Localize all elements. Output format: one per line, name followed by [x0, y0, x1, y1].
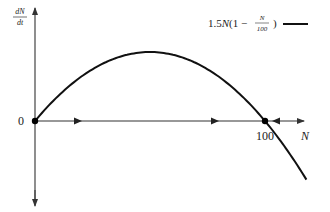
phase-arrow-right-2 [211, 118, 219, 125]
x-tick-100: 100 [256, 129, 274, 143]
legend-label-suffix: ) [273, 17, 277, 30]
phase-arrow-left [272, 118, 280, 125]
x-axis-label: N [300, 129, 310, 143]
equilibrium-dot-0 [32, 118, 38, 124]
phase-plot: 0 100 N dN dt 1.5N(1 − N 100 ) [0, 0, 330, 212]
legend-label-numerator: N [259, 14, 265, 22]
legend: 1.5N(1 − N 100 ) [208, 14, 308, 33]
logistic-curve [35, 52, 306, 180]
x-tick-0: 0 [18, 114, 24, 128]
phase-arrow-right-1 [74, 118, 82, 125]
equilibrium-dot-100 [262, 118, 268, 124]
legend-label-denominator: 100 [257, 25, 268, 33]
y-axis-label-numerator: dN [15, 7, 25, 16]
legend-label-prefix: 1.5N(1 − [208, 17, 247, 30]
y-axis-label-denominator: dt [17, 18, 24, 27]
